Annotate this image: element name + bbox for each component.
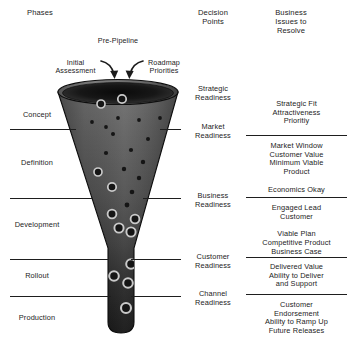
- funnel-particle-dot: [146, 137, 150, 141]
- funnel-particle-ring: [108, 183, 116, 191]
- decision-points-header: Decision Points: [185, 9, 241, 27]
- stage-divider-left-1: [10, 129, 76, 130]
- business-issues-header: Business Issues to Resolve: [256, 9, 326, 36]
- funnel-particle-ring: [94, 168, 102, 176]
- stage-divider-right-4: [131, 296, 181, 297]
- decision-point-customer-readiness: Customer Readiness: [185, 253, 241, 270]
- phase-label-definition: Definition: [5, 159, 69, 168]
- stage-divider-right-1: [160, 129, 181, 130]
- business-issues-rollout: Delivered Value Ability to Deliver and S…: [246, 263, 347, 289]
- pre-pipeline-arrows: [98, 56, 150, 84]
- issues-divider-1: [246, 135, 347, 136]
- decision-point-channel-readiness: Channel Readiness: [185, 290, 241, 307]
- phase-label-concept: Concept: [5, 111, 69, 120]
- funnel-particle-ring: [123, 278, 133, 288]
- phases-header: Phases: [8, 9, 72, 18]
- stage-divider-right-2: [143, 198, 181, 199]
- funnel-particle-dot: [125, 203, 130, 208]
- issues-divider-2: [246, 197, 347, 198]
- issues-divider-4: [246, 294, 347, 295]
- phase-label-rollout: Rollout: [5, 272, 69, 281]
- funnel-particle-dot: [137, 118, 141, 122]
- funnel-particle-dot: [111, 132, 115, 136]
- funnel-particle-dot: [130, 190, 135, 195]
- funnel-particle-dot: [116, 116, 120, 120]
- funnel-diagram: Phases Decision Points Business Issues t…: [0, 0, 357, 344]
- funnel-particle-dot: [122, 167, 126, 171]
- business-issues-development: Engaged Lead Customer Viable Plan Compet…: [246, 204, 347, 256]
- funnel-particle-dot: [158, 116, 162, 120]
- funnel-particle-dot: [137, 176, 141, 180]
- business-issues-definition: Market Window Customer Value Minimum Via…: [246, 142, 347, 194]
- funnel-particle-dot: [104, 151, 108, 155]
- pre-pipeline-label: Pre-Pipeline: [78, 37, 158, 45]
- stage-divider-left-3: [10, 259, 108, 260]
- funnel-particle-ring: [126, 227, 135, 236]
- initial-assessment-label: Initial Assessment: [48, 59, 103, 76]
- phase-label-production: Production: [5, 314, 69, 323]
- stage-divider-right-3: [131, 259, 181, 260]
- stage-divider-left-2: [10, 198, 93, 199]
- stage-divider-left-4: [10, 296, 111, 297]
- decision-point-strategic-readiness: Strategic Readiness: [185, 85, 241, 102]
- funnel-particle-ring: [121, 303, 131, 313]
- decision-point-market-readiness: Market Readiness: [185, 123, 241, 140]
- funnel-particle-ring: [131, 215, 140, 224]
- funnel-particle-ring: [109, 271, 119, 281]
- funnel-particle-dot: [104, 125, 108, 129]
- funnel-particle-ring: [108, 210, 117, 219]
- funnel-particle-dot: [141, 160, 145, 164]
- phase-label-development: Development: [2, 221, 72, 230]
- funnel-particle-ring: [126, 259, 136, 269]
- funnel-particles: [90, 95, 162, 313]
- funnel-particle-ring: [114, 223, 123, 232]
- issues-divider-3: [246, 257, 347, 258]
- funnel-particle-ring: [97, 100, 105, 108]
- business-issues-concept: Strategic Fit Attractiveness Prioritiy: [246, 100, 347, 126]
- funnel-particle-ring: [118, 95, 126, 103]
- business-issues-production: Customer Endorsement Ability to Ramp Up …: [246, 301, 347, 336]
- decision-point-business-readiness: Business Readiness: [185, 192, 241, 209]
- funnel-particle-dot: [129, 148, 133, 152]
- funnel-particle-dot: [90, 120, 94, 124]
